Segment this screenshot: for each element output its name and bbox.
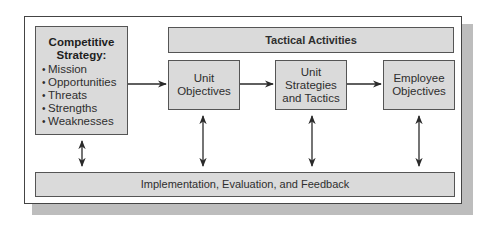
unit-strategies-box: Unit Strategies and Tactics [275, 60, 347, 110]
unit-objectives-line-2: Objectives [177, 85, 231, 98]
employee-objectives-box: Employee Objectives [383, 60, 455, 110]
unit-strategies-line-1: Unit [282, 66, 339, 79]
unit-objectives-line-1: Unit [177, 72, 231, 85]
bullet-text: Opportunities [48, 76, 116, 88]
bullet-text: Strengths [48, 102, 97, 114]
bullet-opportunities: •Opportunities [42, 76, 127, 89]
competitive-strategy-title: Competitive Strategy: [36, 36, 127, 62]
bullet-text: Threats [48, 89, 87, 101]
unit-strategies-line-2: Strategies [282, 79, 339, 92]
tactical-activities-bar: Tactical Activities [168, 27, 454, 53]
unit-strategies-line-3: and Tactics [282, 92, 339, 105]
bullet-text: Weaknesses [48, 115, 114, 127]
title-line-2: Strategy: [36, 49, 127, 62]
bullet-text: Mission [48, 63, 87, 75]
title-line-1: Competitive [36, 36, 127, 49]
implementation-bar: Implementation, Evaluation, and Feedback [35, 172, 455, 197]
bullet-weaknesses: •Weaknesses [42, 115, 127, 128]
bullet-threats: •Threats [42, 89, 127, 102]
tactical-activities-label: Tactical Activities [265, 34, 357, 47]
bullet-mission: •Mission [42, 63, 127, 76]
strategy-bullet-list: •Mission •Opportunities •Threats •Streng… [36, 63, 127, 128]
employee-objectives-line-1: Employee [392, 72, 446, 85]
unit-objectives-box: Unit Objectives [168, 60, 240, 110]
implementation-label: Implementation, Evaluation, and Feedback [141, 178, 350, 191]
bullet-strengths: •Strengths [42, 102, 127, 115]
employee-objectives-line-2: Objectives [392, 85, 446, 98]
competitive-strategy-box: Competitive Strategy: •Mission •Opportun… [35, 26, 128, 135]
